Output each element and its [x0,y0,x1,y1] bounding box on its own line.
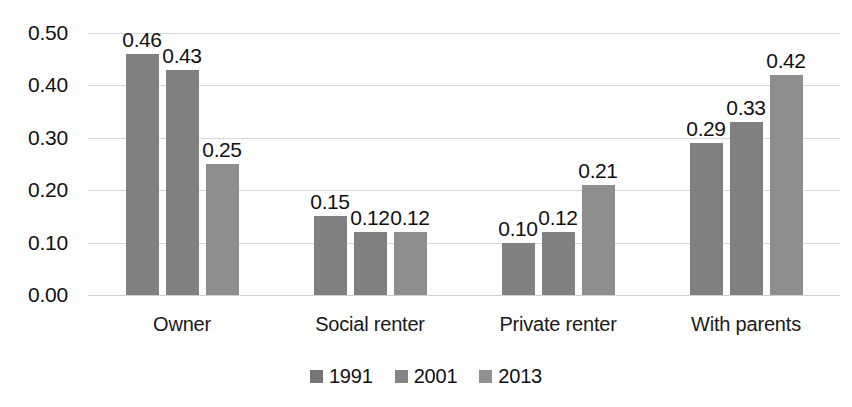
gridline-0.10 [88,243,840,244]
bar-value-label: 0.25 [197,139,248,160]
gridline-0.20 [88,190,840,191]
category-label-owner: Owner [88,313,276,335]
gridline-0.40 [88,85,840,86]
bar [354,232,387,295]
bar [502,243,535,295]
bar-value-label: 0.43 [157,45,208,66]
y-axis-tick-label: 0.40 [0,74,68,95]
legend-swatch-icon [395,370,408,383]
category-label-social-renter: Social renter [276,313,464,335]
legend-label: 2001 [414,366,458,386]
bar [542,232,575,295]
legend-item-1991[interactable]: 1991 [310,366,373,386]
legend-label: 1991 [329,366,373,386]
legend-label: 2013 [498,366,542,386]
y-axis-tick-label: 0.20 [0,179,68,200]
bar-value-label: 0.33 [721,97,772,118]
bar [314,216,347,295]
bar [394,232,427,295]
legend-item-2013[interactable]: 2013 [479,366,542,386]
category-label-with-parents: With parents [652,313,840,335]
gridline-0.50 [88,33,840,34]
legend-swatch-icon [310,370,323,383]
bar [730,122,763,295]
chart-legend: 199120012013 [0,366,852,386]
bar [206,164,239,295]
bar-value-label: 0.12 [533,207,584,228]
bar [126,54,159,295]
y-axis-tick-label: 0.30 [0,127,68,148]
bar [770,75,803,295]
bar-value-label: 0.42 [761,50,812,71]
category-label-private-renter: Private renter [464,313,652,335]
legend-swatch-icon [479,370,492,383]
y-axis-tick-label: 0.10 [0,232,68,253]
plot-area [88,33,840,295]
bar [582,185,615,295]
bar-value-label: 0.29 [681,118,732,139]
bar-chart: 0.000.100.200.300.400.50 0.460.430.250.1… [0,0,852,407]
bar [690,143,723,295]
bar-value-label: 0.12 [385,207,436,228]
bar [166,70,199,295]
y-axis-tick-label: 0.50 [0,22,68,43]
gridline-0.00 [88,295,840,296]
legend-item-2001[interactable]: 2001 [395,366,458,386]
bar-value-label: 0.21 [573,160,624,181]
y-axis-tick-label: 0.00 [0,284,68,305]
